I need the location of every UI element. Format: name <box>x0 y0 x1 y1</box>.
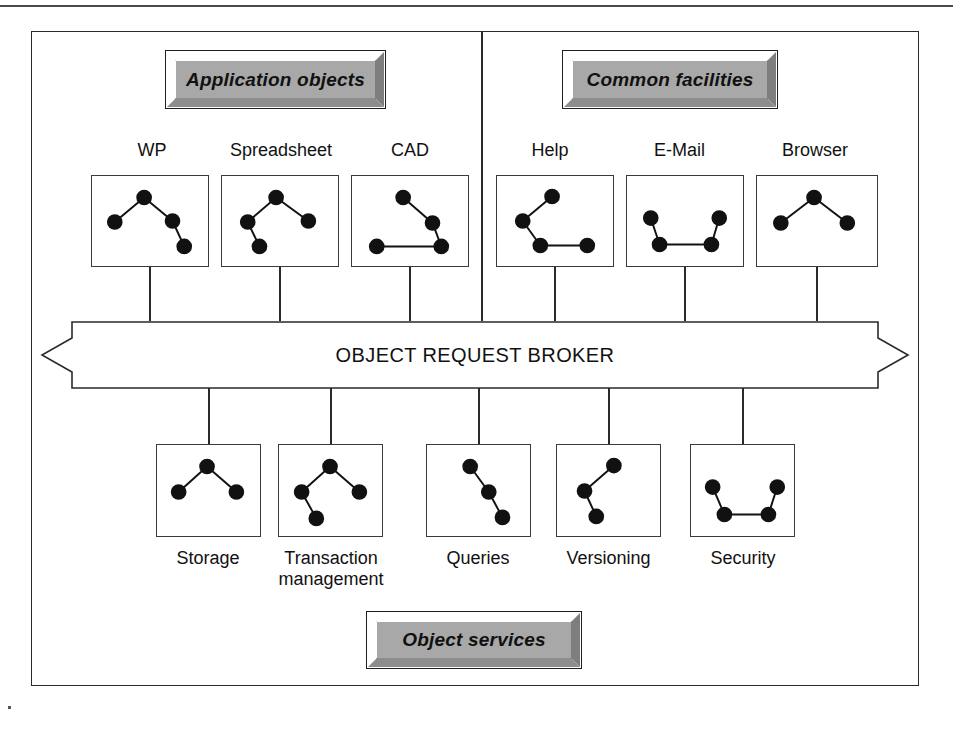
stem-browser <box>816 267 818 321</box>
label-versioning: Versioning <box>551 548 666 569</box>
bevel-top-face <box>368 613 580 622</box>
group-header-application-objects: Application objects <box>165 50 386 109</box>
node-panel-wp <box>91 175 209 267</box>
graph-browser <box>757 176 877 266</box>
node-panel-transaction-management <box>278 444 383 537</box>
stem-security <box>742 388 744 444</box>
bevel-left-face <box>167 52 176 107</box>
group-header-label: Common facilities <box>586 69 753 91</box>
stem-spreadsheet <box>279 267 281 321</box>
bevel-left-face <box>368 613 377 667</box>
stem-help <box>554 267 556 321</box>
page-top-rule <box>0 5 953 7</box>
graph-queries <box>427 445 530 536</box>
page-corner-mark <box>8 706 11 709</box>
bevel-face: Common facilities <box>572 60 768 99</box>
bevel-bottom-face <box>564 98 776 107</box>
node-panel-versioning <box>556 444 661 537</box>
graph-cad <box>352 176 468 266</box>
group-divider <box>481 32 483 321</box>
graph-security <box>691 445 794 536</box>
group-header-common-facilities: Common facilities <box>562 50 778 109</box>
bevel-face: Object services <box>376 621 572 659</box>
bevel-face: Application objects <box>175 60 376 99</box>
stem-queries <box>478 388 480 444</box>
graph-help <box>497 176 613 266</box>
bevel-top-face <box>167 52 384 61</box>
label-security: Security <box>688 548 798 569</box>
bevel-bottom-face <box>167 98 384 107</box>
stem-transaction-management <box>330 388 332 444</box>
orb-label: OBJECT REQUEST BROKER <box>40 344 910 367</box>
bevel-left-face <box>564 52 573 107</box>
stem-storage <box>208 388 210 444</box>
bevel-right-face <box>375 52 384 107</box>
group-header-label: Application objects <box>186 69 365 91</box>
label-help: Help <box>495 140 605 161</box>
stem-cad <box>409 267 411 321</box>
label-email: E-Mail <box>622 140 737 161</box>
graph-wp <box>92 176 208 266</box>
diagram-page: Application objects Common facilities WP… <box>0 0 953 730</box>
object-request-broker-bus: OBJECT REQUEST BROKER <box>40 320 910 390</box>
node-panel-cad <box>351 175 469 267</box>
node-panel-queries <box>426 444 531 537</box>
stem-email <box>684 267 686 321</box>
bevel-right-face <box>767 52 776 107</box>
group-header-label: Object services <box>402 629 545 651</box>
label-storage: Storage <box>153 548 263 569</box>
label-queries: Queries <box>423 548 533 569</box>
node-panel-storage <box>156 444 261 537</box>
node-panel-email <box>626 175 744 267</box>
bevel-bottom-face <box>368 658 580 667</box>
node-panel-browser <box>756 175 878 267</box>
stem-versioning <box>608 388 610 444</box>
graph-transaction-management <box>279 445 382 536</box>
label-wp: WP <box>92 140 212 161</box>
node-panel-spreadsheet <box>221 175 339 267</box>
label-spreadsheet: Spreadsheet <box>215 140 347 161</box>
label-transaction-management: Transaction management <box>270 548 392 590</box>
label-browser: Browser <box>752 140 878 161</box>
stem-wp <box>149 267 151 321</box>
label-cad: CAD <box>350 140 470 161</box>
graph-email <box>627 176 743 266</box>
graph-spreadsheet <box>222 176 338 266</box>
node-panel-security <box>690 444 795 537</box>
group-header-object-services: Object services <box>366 611 582 669</box>
bevel-right-face <box>571 613 580 667</box>
bevel-top-face <box>564 52 776 61</box>
node-panel-help <box>496 175 614 267</box>
graph-versioning <box>557 445 660 536</box>
graph-storage <box>157 445 260 536</box>
